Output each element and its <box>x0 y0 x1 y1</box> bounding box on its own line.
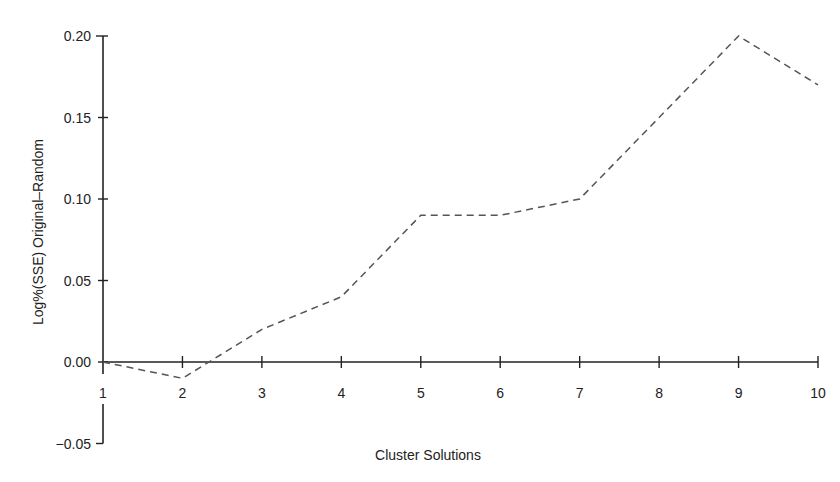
x-tick-label: 5 <box>417 385 425 401</box>
data-series <box>103 36 818 378</box>
x-axis-title: Cluster Solutions <box>375 447 481 463</box>
y-tick-label: 0.20 <box>64 28 91 44</box>
x-tick-label: 10 <box>810 385 826 401</box>
x-tick-label: 3 <box>258 385 266 401</box>
y-tick-label: 0.10 <box>64 191 91 207</box>
x-tick-label: 9 <box>735 385 743 401</box>
series-line <box>103 36 818 378</box>
y-tick-label: −0.05 <box>56 436 92 452</box>
x-tick-label: 8 <box>655 385 663 401</box>
x-tick-label: 4 <box>337 385 345 401</box>
x-tick-label: 1 <box>99 385 107 401</box>
x-tick-label: 2 <box>179 385 187 401</box>
x-tick-label: 7 <box>576 385 584 401</box>
x-tick-label: 6 <box>496 385 504 401</box>
y-tick-label: 0.15 <box>64 110 91 126</box>
y-tick-label: 0.05 <box>64 273 91 289</box>
y-tick-label: 0.00 <box>64 354 91 370</box>
line-chart: 0.200.150.100.050.00−0.05 12345678910 Cl… <box>0 0 840 482</box>
y-axis-title: Log%(SSE) Original–Random <box>30 139 46 325</box>
